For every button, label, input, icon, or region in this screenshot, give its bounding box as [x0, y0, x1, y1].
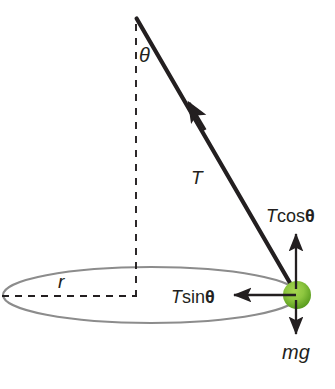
diagram-canvas: θ T r Tcosθ Tsinθ mg: [0, 0, 335, 389]
tension-cosine-component-label: Tcosθ: [266, 206, 315, 226]
angle-theta-label: θ: [139, 44, 150, 66]
tsin-function: sin: [182, 287, 205, 307]
tension-label: T: [191, 167, 204, 188]
conical-pendulum-diagram: θ T r Tcosθ Tsinθ mg: [0, 0, 335, 389]
weight-label: mg: [282, 341, 310, 363]
tension-sine-component-label: Tsinθ: [171, 287, 215, 307]
tsin-angle: θ: [205, 287, 215, 307]
tcos-function: cos: [277, 206, 305, 226]
radius-label: r: [58, 271, 65, 292]
pendulum-string: [137, 19, 297, 296]
tcos-angle: θ: [305, 206, 315, 226]
